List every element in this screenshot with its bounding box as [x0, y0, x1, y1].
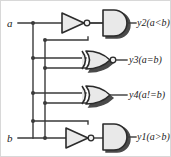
input-label-b: b [7, 133, 13, 144]
and-gate-icon-bottom [103, 124, 136, 152]
output-label-y2: y2(a<b) [137, 18, 170, 28]
logic-circuit-figure: a b y2(a<b) y3(a=b) y4(a!=b) y1(a>b) [0, 0, 171, 157]
not-gate-icon-top [62, 13, 103, 33]
output-label-y3: y3(a=b) [129, 55, 162, 65]
and-gate-icon-top [103, 10, 136, 38]
output-label-y1: y1(a>b) [137, 132, 170, 142]
input-label-a: a [7, 18, 13, 29]
input-b-net [18, 40, 66, 140]
xor-gate-icon [82, 86, 127, 107]
bus-taps [31, 37, 88, 124]
output-label-y4: y4(a!=b) [129, 90, 165, 100]
not-gate-icon-bottom [66, 128, 103, 148]
xnor-gate-icon [82, 51, 127, 72]
